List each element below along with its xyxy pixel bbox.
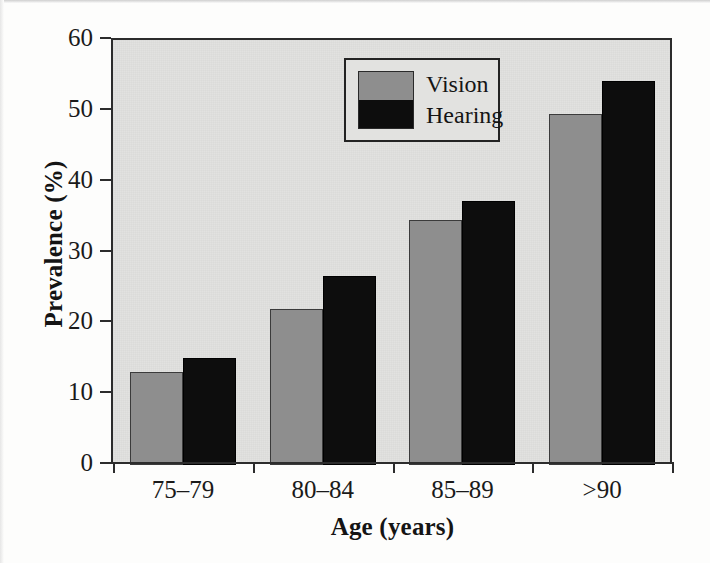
figure-canvas: Prevalence (%) 0102030405060 75–7980–848… <box>0 0 710 563</box>
y-tick-label-60: 60 <box>33 25 93 50</box>
x-tick-label->90: >90 <box>532 477 672 502</box>
bar-hearing-80–84 <box>323 276 376 465</box>
x-tick-divider-3 <box>532 462 534 473</box>
bar-vision-85–89 <box>409 220 462 465</box>
y-tick-20 <box>100 320 111 322</box>
legend-label-hearing: Hearing <box>426 103 503 127</box>
y-tick-0 <box>100 462 111 464</box>
x-tick-label-85–89: 85–89 <box>392 477 532 502</box>
y-tick-40 <box>100 179 111 181</box>
y-tick-label-30: 30 <box>33 238 93 263</box>
chart-legend: Vision Hearing <box>344 58 500 142</box>
x-tick-divider-1 <box>253 462 255 473</box>
legend-swatch-hearing-icon <box>359 100 413 128</box>
y-tick-label-50: 50 <box>33 96 93 121</box>
legend-label-vision: Vision <box>426 72 489 96</box>
y-tick-60 <box>100 37 111 39</box>
y-tick-label-20: 20 <box>33 308 93 333</box>
bar-vision-75–79 <box>130 372 183 466</box>
y-tick-10 <box>100 391 111 393</box>
y-tick-label-10: 10 <box>33 379 93 404</box>
bar-hearing-75–79 <box>183 358 236 465</box>
legend-swatch-vision-icon <box>359 72 413 100</box>
x-axis-title: Age (years) <box>113 513 672 541</box>
bar-hearing->90 <box>602 81 655 465</box>
x-tick-label-80–84: 80–84 <box>253 477 393 502</box>
bar-vision-80–84 <box>270 309 323 465</box>
x-tick-label-75–79: 75–79 <box>113 477 253 502</box>
legend-swatch-group <box>358 71 414 129</box>
x-tick-divider-2 <box>393 462 395 473</box>
bar-vision->90 <box>549 114 602 465</box>
y-tick-label-0: 0 <box>33 450 93 475</box>
y-tick-label-40: 40 <box>33 167 93 192</box>
y-tick-30 <box>100 250 111 252</box>
y-axis-line <box>111 38 113 464</box>
y-tick-50 <box>100 108 111 110</box>
scan-edge-top <box>0 0 710 3</box>
x-tick-end-0 <box>113 462 115 473</box>
scan-edge-left <box>0 0 4 563</box>
bar-hearing-85–89 <box>462 201 515 465</box>
x-tick-end-1 <box>672 462 674 473</box>
